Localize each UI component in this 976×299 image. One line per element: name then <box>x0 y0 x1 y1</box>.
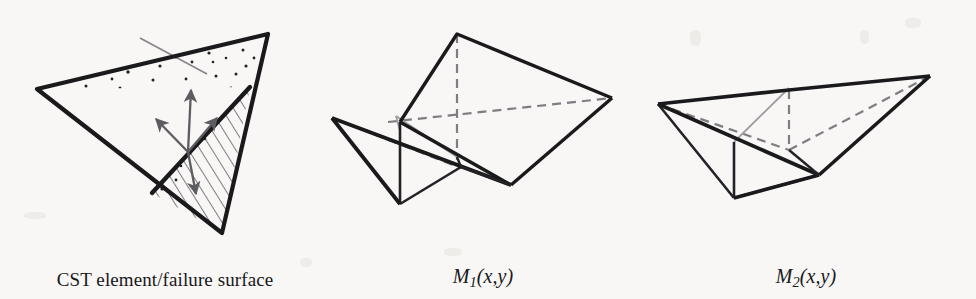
m2-surface-drawing <box>636 0 976 299</box>
m1-surface-drawing <box>318 0 648 299</box>
panel-shape-function-m2: M2(x,y) <box>636 0 976 299</box>
m1-hidden-edges <box>332 34 612 168</box>
shear-vector-left-arrow <box>156 119 188 152</box>
normal-vector-up-arrow <box>188 90 191 152</box>
caption-m2-base: M <box>776 265 793 287</box>
caption-cst-element: CST element/failure surface <box>0 269 330 291</box>
cst-element-drawing <box>0 0 330 299</box>
caption-m2-args: (x,y) <box>800 265 837 287</box>
m1-tent-outline <box>400 34 612 185</box>
figure-container: CST element/failure surface <box>0 0 976 299</box>
m1-base-back-edge-dashed <box>388 98 612 122</box>
m2-base-solid-edges <box>658 104 819 198</box>
caption-m1-args: (x,y) <box>477 265 514 287</box>
panel-cst-element: CST element/failure surface <box>0 0 330 299</box>
caption-m1-subscript: 1 <box>469 274 476 290</box>
caption-m1: M1(x,y) <box>318 265 648 291</box>
m2-element-base-triangle <box>658 104 819 175</box>
caption-m1-base: M <box>453 265 470 287</box>
panel-shape-function-m1: M1(x,y) <box>318 0 648 299</box>
m2-tent-outline <box>658 76 930 198</box>
caption-m2: M2(x,y) <box>636 265 976 291</box>
caption-m2-subscript: 2 <box>792 274 799 290</box>
failure-surface-hatching <box>130 60 290 260</box>
